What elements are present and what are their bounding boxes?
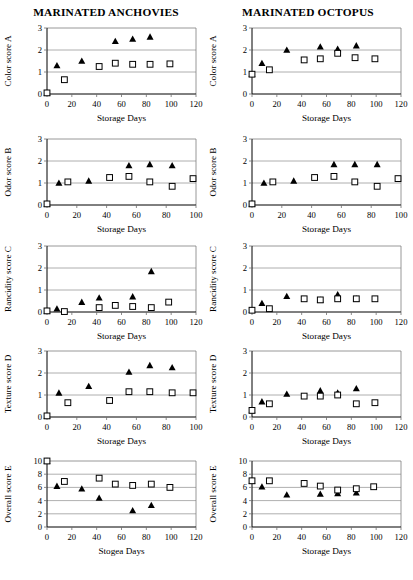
- series-open-square: [44, 174, 196, 207]
- data-point-square: [335, 296, 341, 302]
- data-point-triangle: [112, 38, 119, 44]
- y-tick-label: 2: [243, 368, 247, 378]
- x-tick-label: 40: [102, 422, 111, 432]
- y-tick-label: 2: [243, 263, 247, 273]
- data-point-square: [266, 478, 272, 484]
- x-tick-label: 60: [322, 317, 331, 327]
- data-point-square: [266, 306, 272, 312]
- data-point-square: [249, 307, 255, 313]
- data-point-square: [130, 61, 136, 67]
- data-point-square: [167, 485, 173, 491]
- data-point-triangle: [283, 390, 290, 396]
- data-point-triangle: [317, 387, 324, 393]
- data-point-square: [61, 77, 67, 83]
- data-point-square: [301, 57, 307, 63]
- x-tick-label: 0: [45, 422, 49, 432]
- column-title-anchovies: MARINATED ANCHOVIES: [8, 6, 204, 18]
- data-point-square: [301, 481, 307, 487]
- x-tick-label: 100: [370, 99, 383, 109]
- y-tick-label: 2: [38, 509, 42, 519]
- y-tick-label: 2: [38, 368, 42, 378]
- panel-anchovies-odor: Odor score B0123020406080100Storage Days: [0, 133, 205, 241]
- y-tick-label: 2: [243, 156, 247, 166]
- x-tick-label: 0: [45, 532, 49, 542]
- x-tick-label: 120: [395, 532, 408, 542]
- y-axis-label: Overall score E: [208, 465, 218, 523]
- x-axis-label: Storage Days: [302, 331, 352, 341]
- x-tick-label: 120: [190, 99, 203, 109]
- panel-octopus-odor: Odor score B0123020406080100Storage Days: [205, 133, 410, 241]
- chart-octopus-rancidity: Rancidity score C0123020406080100120Stor…: [205, 240, 410, 348]
- x-tick-label: 80: [347, 422, 356, 432]
- x-tick-label: 0: [250, 532, 254, 542]
- data-point-square: [270, 179, 276, 185]
- x-axis-label: Storage Days: [302, 436, 352, 446]
- x-tick-label: 120: [395, 99, 408, 109]
- data-point-square: [148, 481, 154, 487]
- x-tick-label: 80: [367, 210, 376, 220]
- data-point-triangle: [353, 385, 360, 391]
- series-open-square: [249, 174, 401, 207]
- x-tick-label: 0: [250, 99, 254, 109]
- data-point-square: [372, 296, 378, 302]
- chart-anchovies-rancidity: Rancidity score C0123020406080100120Stor…: [0, 240, 205, 348]
- data-point-triangle: [317, 43, 324, 49]
- panel-anchovies-color: Color score A0123020406080100120Storage …: [0, 22, 205, 130]
- data-point-triangle: [129, 36, 136, 42]
- chart-anchovies-texture: Texture score D0123020406080100Storage D…: [0, 345, 205, 453]
- y-tick-label: 8: [243, 469, 247, 479]
- data-point-square: [126, 389, 132, 395]
- data-point-triangle: [129, 507, 136, 513]
- data-point-triangle: [146, 362, 153, 368]
- x-tick-label: 80: [142, 532, 151, 542]
- y-tick-label: 1: [38, 390, 42, 400]
- data-point-triangle: [85, 383, 92, 389]
- series-open-square: [249, 50, 378, 77]
- x-tick-label: 20: [273, 99, 282, 109]
- data-point-triangle: [148, 502, 155, 508]
- data-point-triangle: [53, 62, 60, 68]
- data-point-triangle: [290, 177, 297, 183]
- data-point-square: [147, 179, 153, 185]
- x-tick-label: 60: [117, 532, 126, 542]
- data-point-triangle: [78, 299, 85, 305]
- data-point-triangle: [125, 368, 132, 374]
- data-point-square: [372, 400, 378, 406]
- chart-anchovies-color: Color score A0123020406080100120Storage …: [0, 22, 205, 130]
- data-point-triangle: [125, 162, 132, 168]
- data-point-square: [352, 55, 358, 61]
- data-point-square: [130, 483, 136, 489]
- data-point-square: [112, 60, 118, 66]
- x-axis-label: Storage Days: [302, 113, 352, 123]
- data-point-square: [107, 398, 113, 404]
- data-point-square: [96, 305, 102, 311]
- x-tick-label: 60: [132, 422, 141, 432]
- y-tick-label: 0: [38, 307, 42, 317]
- panel-octopus-overall: Overall score E0246810020406080100120Sto…: [205, 455, 410, 563]
- panel-octopus-rancidity: Rancidity score C0123020406080100120Stor…: [205, 240, 410, 348]
- x-tick-label: 0: [45, 317, 49, 327]
- data-point-square: [107, 175, 113, 181]
- y-axis-label: Rancidity score C: [3, 246, 13, 312]
- data-point-square: [353, 296, 359, 302]
- y-axis-label: Color score A: [208, 35, 218, 86]
- data-point-square: [249, 201, 255, 207]
- x-tick-label: 120: [395, 317, 408, 327]
- x-tick-label: 20: [73, 422, 82, 432]
- y-tick-label: 1: [243, 178, 247, 188]
- data-point-triangle: [147, 33, 154, 39]
- data-point-square: [395, 176, 401, 182]
- x-tick-label: 60: [322, 99, 331, 109]
- data-point-square: [61, 479, 67, 485]
- data-point-square: [372, 56, 378, 62]
- series-open-square: [249, 296, 378, 313]
- y-axis-label: Rancidity score C: [208, 246, 218, 312]
- x-tick-label: 40: [92, 532, 101, 542]
- data-point-triangle: [129, 293, 136, 299]
- data-point-triangle: [317, 491, 324, 497]
- x-tick-label: 100: [190, 422, 203, 432]
- x-tick-label: 40: [307, 210, 316, 220]
- y-tick-label: 3: [243, 241, 247, 251]
- y-tick-label: 3: [38, 346, 42, 356]
- data-point-square: [353, 401, 359, 407]
